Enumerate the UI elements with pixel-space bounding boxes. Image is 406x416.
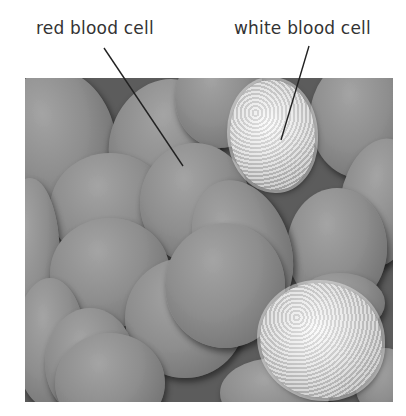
label-white-blood-cell: white blood cell (234, 18, 371, 38)
blood-cells-micrograph (25, 78, 393, 402)
white-blood-cell (230, 80, 315, 190)
label-red-blood-cell: red blood cell (36, 18, 154, 38)
